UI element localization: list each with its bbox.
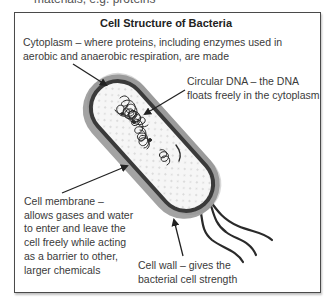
label-cell-wall: Cell wall – gives the bacterial cell str… bbox=[138, 258, 258, 286]
diagram-title: Cell Structure of Bacteria bbox=[0, 17, 332, 29]
membrane-arrow bbox=[62, 166, 127, 193]
cytoplasm-arrow bbox=[73, 64, 106, 85]
label-cytoplasm: Cytoplasm – where proteins, including en… bbox=[23, 35, 313, 63]
wall-arrow bbox=[174, 220, 183, 256]
label-circular-dna: Circular DNA – the DNA floats freely in … bbox=[187, 74, 322, 102]
label-cell-membrane: Cell membrane – allows gases and water t… bbox=[24, 195, 134, 277]
